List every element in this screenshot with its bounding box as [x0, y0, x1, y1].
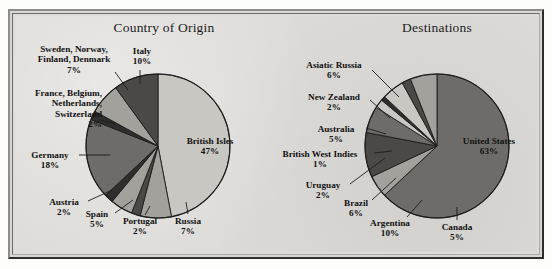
pie-callout-portugal: Portugal2% — [115, 216, 165, 237]
slice-pct-text: 5% — [432, 232, 482, 242]
slice-label-text: British Isles — [187, 136, 234, 146]
slice-label-text: Brazil — [334, 198, 378, 208]
pie-callout-brazil: Brazil6% — [334, 198, 378, 219]
slice-pct-text: 10% — [360, 228, 420, 238]
slice-pct-text: 5% — [308, 134, 364, 144]
figure-page: Country of Origin Destinations British I… — [0, 0, 552, 269]
pie-callout-british-west-indies: British West Indies1% — [268, 149, 372, 170]
slice-label-text: Austria — [42, 197, 86, 207]
pie-callout-new-zealand: New Zealand2% — [294, 92, 374, 113]
pie-callout-argentina: Argentina10% — [360, 218, 420, 239]
pie-callout-asiatic-russia: Asiatic Russia6% — [292, 60, 376, 81]
pie-callout-australia: Australia5% — [308, 124, 364, 145]
pie-callout-spain: Spain5% — [78, 209, 116, 230]
slice-pct-text: 63% — [451, 146, 527, 156]
pie-callout-italy: Italy10% — [122, 46, 162, 67]
slice-pct-text: 18% — [22, 160, 78, 170]
slice-label-text: Argentina — [360, 218, 420, 228]
slice-pct-text: 47% — [172, 146, 248, 156]
slice-label-text: Italy — [122, 46, 162, 56]
slice-label-text: British West Indies — [268, 149, 372, 159]
slice-label-text: Germany — [22, 150, 78, 160]
slice-pct-text: 2% — [115, 226, 165, 236]
slice-pct-text: 5% — [78, 219, 116, 229]
slice-pct-text: 7% — [166, 226, 210, 236]
slice-label-text: Russia — [166, 216, 210, 226]
slice-label-text: Sweden, Norway, — [22, 44, 126, 54]
slice-label-text: New Zealand — [294, 92, 374, 102]
slice-pct-text: 2% — [294, 102, 374, 112]
slice-label-text: Australia — [308, 124, 364, 134]
slice-pct-text: 6% — [292, 70, 376, 80]
slice-label-text: Spain — [78, 209, 116, 219]
pie-inner-label-united-states: United States63% — [451, 136, 527, 157]
slice-pct-text: 1% — [268, 159, 372, 169]
slice-label-text: Portugal — [115, 216, 165, 226]
pie-callout-canada: Canada5% — [432, 222, 482, 243]
pie-inner-label-british-isles: British Isles47% — [172, 136, 248, 157]
slice-label-text: Canada — [432, 222, 482, 232]
slice-label-text: Uruguay — [296, 180, 350, 190]
slice-label-text: France, Belgium, — [10, 88, 102, 98]
pie-callout-france-belgium-netherlands-switzerland: France, Belgium,Netherlands,Switzerland2… — [10, 88, 102, 130]
slice-pct-text: 2% — [10, 119, 102, 129]
slice-label-text: Finland, Denmark — [22, 54, 126, 64]
pie-callout-sweden-norway-finland-denmark: Sweden, Norway,Finland, Denmark7% — [22, 44, 126, 75]
slice-pct-text: 7% — [22, 65, 126, 75]
leader-line-asiatic-russia — [372, 70, 399, 97]
pie-callout-russia: Russia7% — [166, 216, 210, 237]
pie-callout-germany: Germany18% — [22, 150, 78, 171]
slice-label-text: Switzerland — [10, 109, 102, 119]
slice-pct-text: 10% — [122, 56, 162, 66]
slice-label-text: United States — [463, 136, 515, 146]
slice-label-text: Asiatic Russia — [292, 60, 376, 70]
slice-label-text: Netherlands, — [10, 98, 102, 108]
